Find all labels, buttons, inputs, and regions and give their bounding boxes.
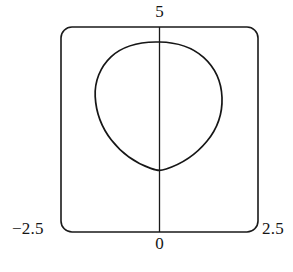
axis-label-top: 5: [0, 2, 293, 21]
plot-canvas: [0, 0, 293, 272]
axis-label-top-text: 5: [155, 2, 164, 21]
axis-label-xmax: 2.5: [262, 219, 284, 238]
axis-label-origin: 0: [0, 234, 293, 253]
plot-figure: 5 0 −2.5 2.5: [0, 0, 293, 272]
axis-label-origin-text: 0: [155, 234, 164, 253]
closed-contour: [95, 42, 222, 170]
axis-label-xmin: −2.5: [12, 219, 44, 238]
